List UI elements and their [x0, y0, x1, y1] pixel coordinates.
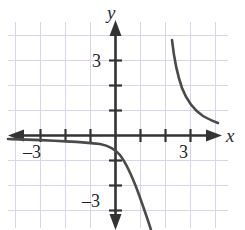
coordinate-plane: [0, 0, 245, 230]
y-axis-label: y: [107, 3, 115, 22]
graph-figure: y x 3 –3 –3 3: [0, 0, 245, 230]
x-axis-label: x: [226, 126, 234, 145]
y-axis: [110, 20, 122, 230]
x-tick-label-3: 3: [179, 143, 188, 161]
y-tick-label-minus-3: –3: [82, 192, 100, 210]
x-tick-label-minus-3: –3: [23, 143, 41, 161]
y-tick-label-3: 3: [92, 52, 101, 70]
